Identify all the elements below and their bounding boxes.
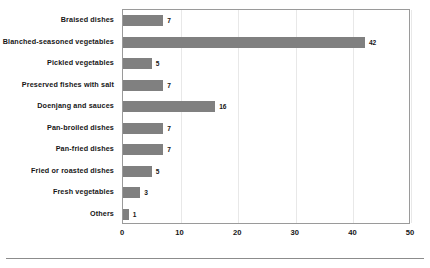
bar (123, 187, 140, 198)
bar (123, 166, 152, 177)
bar (123, 101, 215, 112)
bar-value-label: 7 (167, 144, 171, 155)
bar (123, 123, 163, 134)
category-label: Pan-broiled dishes (47, 122, 114, 133)
category-label: Braised dishes (61, 14, 114, 25)
bar-value-label: 5 (156, 58, 160, 69)
bar-value-label: 1 (133, 209, 137, 220)
bar-value-label: 5 (156, 166, 160, 177)
bar (123, 15, 163, 26)
x-tick-label: 0 (120, 228, 124, 237)
category-label: Fresh vegetables (53, 186, 114, 197)
bar-value-label: 7 (167, 123, 171, 134)
bar-chart-figure: Braised dishesBlanched-seasoned vegetabl… (0, 0, 430, 268)
bar (123, 80, 163, 91)
bar (123, 209, 129, 220)
x-tick-label: 30 (291, 228, 299, 237)
category-label: Preserved fishes with salt (22, 79, 114, 90)
plot-area: 742571677531 (122, 9, 410, 224)
bars-layer: 742571677531 (123, 10, 409, 223)
x-tick-label: 20 (233, 228, 241, 237)
bar (123, 58, 152, 69)
x-tick-label: 50 (406, 228, 414, 237)
x-tick-label: 10 (175, 228, 183, 237)
category-label: Fried or roasted dishes (31, 165, 114, 176)
bar (123, 37, 365, 48)
category-label: Pickled vegetables (47, 57, 114, 68)
bar-value-label: 16 (219, 101, 226, 112)
category-label: Doenjang and sauces (37, 100, 114, 111)
bar-value-label: 42 (369, 37, 376, 48)
category-label: Others (90, 208, 114, 219)
bar-value-label: 7 (167, 80, 171, 91)
bar (123, 144, 163, 155)
category-label: Pan-fried dishes (56, 143, 114, 154)
bar-value-label: 7 (167, 15, 171, 26)
category-label: Blanched-seasoned vegetables (3, 36, 114, 47)
category-axis-labels: Braised dishesBlanched-seasoned vegetabl… (0, 9, 118, 224)
x-axis-tick-labels: 01020304050 (122, 228, 410, 240)
x-tick-label: 40 (348, 228, 356, 237)
footer-divider (6, 258, 424, 259)
gridline-50 (411, 10, 412, 223)
bar-value-label: 3 (144, 187, 148, 198)
